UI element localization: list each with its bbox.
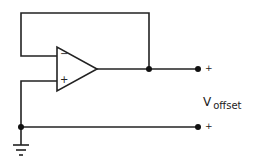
noninverting-input-sign: + <box>60 75 68 85</box>
inverting-input-sign: − <box>60 49 68 59</box>
ground-junction-node <box>18 124 24 130</box>
v-offset-main: V <box>203 95 211 109</box>
noninverting-input-wire <box>21 81 57 127</box>
v-offset-label: Voffset <box>203 91 242 110</box>
feedback-wire <box>21 13 149 69</box>
circuit-diagram <box>0 0 256 168</box>
ground-terminal-polarity: + <box>205 121 213 131</box>
output-junction-node <box>146 66 152 72</box>
ground-terminal <box>195 124 201 130</box>
output-terminal-polarity: + <box>205 63 213 73</box>
ground-icon <box>13 145 29 155</box>
output-terminal <box>195 66 201 72</box>
v-offset-subscript: offset <box>213 100 241 111</box>
